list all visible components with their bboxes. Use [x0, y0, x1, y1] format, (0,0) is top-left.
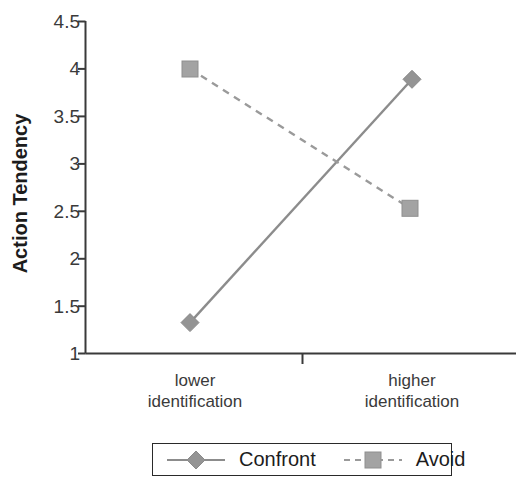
series-line-avoid [190, 69, 410, 208]
legend-label-confront: Confront [239, 448, 316, 471]
y-axis-ticks [78, 22, 86, 354]
x-tick-label-lower-line2: identification [130, 391, 260, 412]
line-chart: Action Tendency 4.5 4 3.5 3 2.5 2 1.5 1 [0, 0, 523, 478]
data-point-avoid-higher [402, 200, 418, 216]
legend-label-avoid: Avoid [416, 448, 466, 471]
data-point-avoid-lower [182, 61, 198, 77]
x-tick-label-higher-line2: identification [347, 391, 477, 412]
x-tick-label-lower: lower identification [130, 370, 260, 413]
legend-entry-avoid: Avoid [342, 444, 466, 475]
x-tick-label-lower-line1: lower [130, 370, 260, 391]
legend-marker-square-icon [342, 449, 404, 471]
chart-legend: Confront Avoid [152, 443, 452, 476]
legend-entry-confront: Confront [165, 444, 316, 475]
x-tick-label-higher: higher identification [347, 370, 477, 413]
legend-marker-diamond-icon [165, 449, 227, 471]
series-line-confront [190, 79, 412, 322]
x-tick-label-higher-line1: higher [347, 370, 477, 391]
